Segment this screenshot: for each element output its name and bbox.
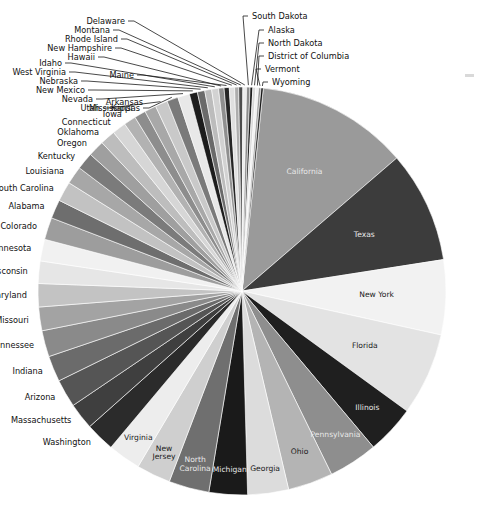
leader-label-north-dakota: North Dakota: [268, 38, 323, 48]
slice-label-pennsylvania: Pennsylvania: [311, 430, 361, 439]
leader-label-tennessee: Tennessee: [0, 340, 34, 350]
leader-label-oregon: Oregon: [57, 138, 87, 148]
leader-label-wisconsin: Wisconsin: [0, 266, 28, 276]
pie-chart-figure: CaliforniaTexasNew YorkFloridaIllinoisPe…: [0, 0, 477, 522]
leader-label-alaska: Alaska: [268, 25, 295, 35]
leader-line-south-dakota: [243, 16, 248, 85]
leader-label-south-dakota: South Dakota: [252, 11, 307, 21]
leader-label-arizona: Arizona: [25, 392, 56, 402]
leader-label-wyoming: Wyoming: [272, 77, 310, 87]
leader-label-kentucky: Kentucky: [38, 151, 76, 161]
leader-label-new-hampshire: New Hampshire: [47, 43, 112, 53]
leader-label-delaware: Delaware: [86, 16, 125, 26]
slice-label-virginia: Virginia: [124, 433, 153, 442]
leader-label-washington: Washington: [43, 437, 91, 447]
leader-label-missouri: Missouri: [0, 315, 29, 325]
leader-label-hawaii: Hawaii: [68, 52, 95, 62]
leader-label-alabama: Alabama: [8, 201, 44, 211]
leader-label-nevada: Nevada: [62, 94, 93, 104]
slice-label-ohio: Ohio: [291, 447, 309, 456]
leader-label-utah: Utah: [81, 103, 100, 113]
leader-label-maine: Maine: [109, 70, 134, 80]
leader-label-montana: Montana: [74, 25, 110, 35]
leader-label-nebraska: Nebraska: [39, 76, 78, 86]
leader-label-kansas: Kansas: [111, 103, 140, 113]
slice-label-illinois: Illinois: [355, 403, 379, 412]
leader-label-vermont: Vermont: [265, 64, 300, 74]
slice-label-texas: Texas: [353, 230, 375, 239]
slice-label-new-york: New York: [359, 290, 394, 299]
leader-label-louisiana: Louisiana: [25, 166, 64, 176]
leader-label-west-virginia: West Virginia: [12, 67, 66, 77]
leader-label-idaho: Idaho: [39, 58, 62, 68]
leader-line-rhode-island: [121, 39, 237, 85]
leader-label-maryland: Maryland: [0, 290, 27, 300]
leader-line-wyoming: [262, 82, 268, 86]
leader-label-indiana: Indiana: [12, 366, 42, 376]
slice-label-michigan: Michigan: [213, 465, 247, 474]
leader-label-massachusetts: Massachusetts: [11, 415, 72, 425]
leader-line-district-of-columbia: [257, 56, 264, 86]
leader-label-rhode-island: Rhode Island: [65, 34, 118, 44]
leader-label-minnesota: Minnesota: [0, 243, 31, 253]
slice-label-georgia: Georgia: [250, 464, 280, 473]
slice-label-florida: Florida: [352, 341, 378, 350]
leader-line-north-dakota: [255, 43, 265, 85]
slice-label-california: California: [286, 167, 322, 176]
pie-chart-svg: CaliforniaTexasNew YorkFloridaIllinoisPe…: [0, 0, 477, 522]
leader-label-district-of-columbia: District of Columbia: [268, 51, 349, 61]
leader-line-new-mexico: [88, 90, 193, 91]
leader-label-south-carolina: South Carolina: [0, 183, 54, 193]
leader-label-colorado: Colorado: [0, 221, 37, 231]
leader-label-new-mexico: New Mexico: [36, 85, 85, 95]
corner-artifact: [465, 74, 474, 77]
leader-label-oklahoma: Oklahoma: [57, 127, 99, 137]
